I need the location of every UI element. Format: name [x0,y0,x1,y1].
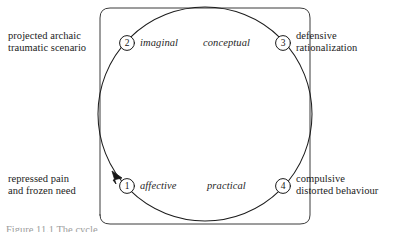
node-1-mode-label: affective [140,180,176,192]
node-4-number: 4 [276,179,290,193]
node-2-number: 2 [120,36,134,50]
node-1-description-line1: repressed pain [8,173,76,185]
figure-caption: Figure 11.1 The cycle [6,224,98,232]
node-2-description-line2: traumatic scenario [8,42,86,54]
node-2-description: projected archaic traumatic scenario [8,30,86,55]
node-1-description-line2: and frozen need [8,185,76,197]
node-3-description-line1: defensive [296,30,357,42]
node-2-mode-label: imaginal [140,37,178,49]
node-1-number: 1 [120,179,134,193]
node-4-description-line2: distorted behaviour [296,185,378,197]
node-4-description-line1: compulsive [296,173,378,185]
figure-container: projected archaic traumatic scenario def… [0,0,407,232]
node-3-mode-label: conceptual [203,37,250,49]
node-4-mode-label: practical [207,180,246,192]
node-3-description-line2: rationalization [296,42,357,54]
node-2-description-line1: projected archaic [8,30,86,42]
node-4-description: compulsive distorted behaviour [296,173,378,198]
node-3-number: 3 [276,36,290,50]
node-3-description: defensive rationalization [296,30,357,55]
node-1-description: repressed pain and frozen need [8,173,76,198]
